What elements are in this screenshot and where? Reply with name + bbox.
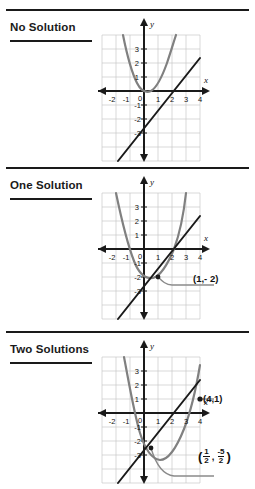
x-tick-4: 4 bbox=[198, 95, 202, 104]
x-tick-3: 3 bbox=[184, 417, 188, 426]
x-tick--2: -2 bbox=[109, 95, 116, 104]
fraction-numerator: -5 bbox=[216, 448, 225, 456]
graph-no-solution: -2 -1 0 1 2 3 4 3 2 1 -1 -2 -3 x y bbox=[96, 13, 214, 163]
x-tick-2: 2 bbox=[170, 417, 174, 426]
y-tick-2: 2 bbox=[135, 59, 139, 68]
paren-close: ) bbox=[227, 449, 231, 464]
x-tick-4: 4 bbox=[198, 253, 202, 262]
y-tick--3: -3 bbox=[134, 129, 141, 138]
y-tick--1: -1 bbox=[134, 423, 141, 432]
x-tick--1: -1 bbox=[123, 95, 130, 104]
y-axis-label: y bbox=[149, 19, 154, 29]
panel-two-solutions: Two Solutions bbox=[0, 331, 255, 489]
heading-rule bbox=[10, 362, 92, 364]
panel-one-solution: One Solution bbox=[0, 167, 255, 331]
comma-separator: , bbox=[212, 451, 215, 462]
y-tick-1: 1 bbox=[135, 73, 139, 82]
y-tick--1: -1 bbox=[134, 259, 141, 268]
y-tick-1: 1 bbox=[135, 231, 139, 240]
x-tick-1: 1 bbox=[156, 253, 160, 262]
y-tick-3: 3 bbox=[135, 45, 139, 54]
y-tick-3: 3 bbox=[135, 203, 139, 212]
x-axis-label: x bbox=[203, 233, 208, 243]
y-tick-2: 2 bbox=[135, 381, 139, 390]
y-tick--3: -3 bbox=[134, 451, 141, 460]
intersection-point-1-neg2 bbox=[156, 275, 161, 280]
panel-heading-one-solution: One Solution bbox=[10, 179, 83, 191]
fraction-one-half: 1 2 bbox=[203, 448, 209, 465]
fraction-neg-five-halves: -5 2 bbox=[216, 448, 225, 465]
y-tick-1: 1 bbox=[135, 395, 139, 404]
fraction-denominator: 2 bbox=[218, 456, 224, 465]
y-axis-label: y bbox=[149, 177, 154, 187]
annotation-half-neg-five-halves: ( 1 2 , -5 2 ) bbox=[198, 448, 231, 465]
panel-heading-no-solution: No Solution bbox=[10, 21, 76, 33]
panel-no-solution: No Solution bbox=[0, 9, 255, 167]
y-tick--1: -1 bbox=[134, 101, 141, 110]
fraction-denominator: 2 bbox=[203, 456, 209, 465]
paren-open: ( bbox=[198, 449, 202, 464]
graph-two-solutions: -2 -1 0 1 2 3 4 3 2 1 -1 -2 -3 x y bbox=[96, 335, 214, 485]
intersection-point-half-neg-five-halves bbox=[149, 446, 154, 451]
x-tick-1: 1 bbox=[156, 417, 160, 426]
x-tick--1: -1 bbox=[123, 417, 130, 426]
worksheet-page: No Solution bbox=[0, 0, 255, 489]
y-tick--2: -2 bbox=[134, 115, 141, 124]
x-tick--1: -1 bbox=[123, 253, 130, 262]
panel-heading-two-solutions: Two Solutions bbox=[10, 343, 89, 355]
y-axis-label: y bbox=[149, 341, 154, 351]
intersection-point-4-1 bbox=[197, 396, 202, 401]
x-axis-label: x bbox=[203, 75, 208, 85]
x-tick--2: -2 bbox=[109, 253, 116, 262]
annotation-one-solution: (1,- 2) bbox=[193, 273, 218, 284]
x-tick-4: 4 bbox=[198, 417, 202, 426]
y-tick--3: -3 bbox=[134, 287, 141, 296]
x-tick-1: 1 bbox=[156, 95, 160, 104]
heading-rule bbox=[10, 198, 92, 200]
graph-one-solution: -2 -1 0 1 2 3 4 3 2 1 -1 -2 -3 x y bbox=[96, 171, 214, 321]
heading-rule bbox=[10, 40, 92, 42]
x-tick-3: 3 bbox=[184, 95, 188, 104]
x-tick-3: 3 bbox=[184, 253, 188, 262]
y-tick-3: 3 bbox=[135, 367, 139, 376]
y-tick-2: 2 bbox=[135, 217, 139, 226]
y-tick--2: -2 bbox=[134, 437, 141, 446]
annotation-four-one: (4,1) bbox=[203, 393, 223, 404]
x-tick-2: 2 bbox=[170, 95, 174, 104]
y-tick--2: -2 bbox=[134, 273, 141, 282]
fraction-numerator: 1 bbox=[203, 448, 209, 456]
x-tick-2: 2 bbox=[170, 253, 174, 262]
x-tick--2: -2 bbox=[109, 417, 116, 426]
